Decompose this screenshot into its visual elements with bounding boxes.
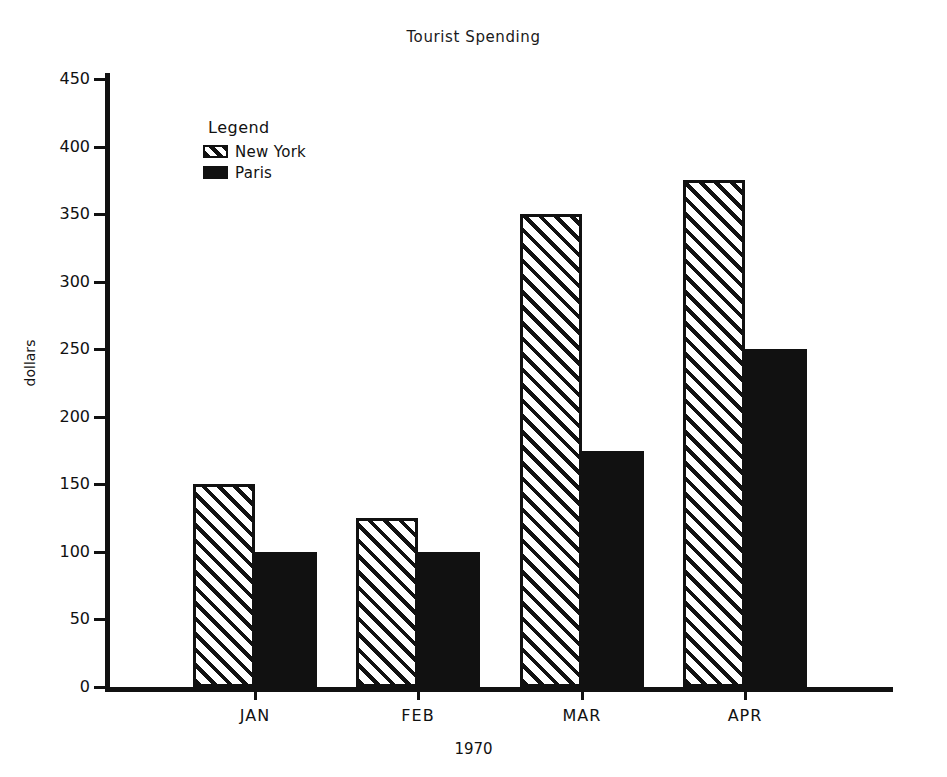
y-axis-tick <box>94 146 106 149</box>
y-axis-tick-label: 150 <box>4 474 90 493</box>
x-axis-tick-label: MAR <box>522 706 642 725</box>
bar-mar-new-york <box>520 214 582 687</box>
y-axis-tick <box>94 416 106 419</box>
y-axis-tick <box>94 618 106 621</box>
bar-feb-new-york <box>356 518 418 687</box>
chart-legend: Legend New YorkParis <box>203 118 306 183</box>
y-axis-tick <box>94 281 106 284</box>
bar-mar-paris <box>582 451 644 687</box>
y-axis-tick <box>94 483 106 486</box>
x-axis-tick <box>417 687 420 700</box>
y-axis-tick-label: 400 <box>4 137 90 156</box>
x-axis-tick <box>581 687 584 700</box>
legend-swatch-icon <box>203 166 228 179</box>
y-axis-tick <box>94 686 106 689</box>
y-axis-tick <box>94 213 106 216</box>
y-axis-title: dollars <box>22 331 38 395</box>
y-axis-tick-label: 100 <box>4 542 90 561</box>
bar-feb-paris <box>418 552 480 687</box>
chart-title: Tourist Spending <box>0 28 947 46</box>
bar-apr-paris <box>745 349 807 687</box>
bar-chart-figure: Tourist Spending 45040035030025020015010… <box>0 0 947 777</box>
x-axis-tick <box>254 687 257 700</box>
y-axis-tick-label: 450 <box>4 69 90 88</box>
x-axis-tick-label: APR <box>685 706 805 725</box>
legend-entries: New YorkParis <box>203 141 306 183</box>
x-axis-tick <box>744 687 747 700</box>
y-axis-tick-label: 350 <box>4 204 90 223</box>
y-axis-tick-label: 250 <box>4 339 90 358</box>
y-axis-tick-label: 300 <box>4 272 90 291</box>
y-axis-line <box>105 73 110 690</box>
bar-jan-new-york <box>193 484 255 687</box>
y-axis-tick-label: 200 <box>4 407 90 426</box>
x-axis-line <box>105 687 893 692</box>
y-axis-tick-label: 0 <box>4 677 90 696</box>
legend-item-label: Paris <box>235 164 272 182</box>
legend-item-label: New York <box>235 143 306 161</box>
x-axis-title: 1970 <box>0 740 947 758</box>
legend-title: Legend <box>208 118 306 137</box>
y-axis-tick <box>94 551 106 554</box>
bar-jan-paris <box>255 552 317 687</box>
y-axis-tick <box>94 78 106 81</box>
legend-item: Paris <box>203 162 306 183</box>
bar-apr-new-york <box>683 180 745 687</box>
legend-swatch-icon <box>203 145 228 158</box>
legend-item: New York <box>203 141 306 162</box>
x-axis-tick-label: JAN <box>195 706 315 725</box>
x-axis-tick-label: FEB <box>358 706 478 725</box>
y-axis-tick <box>94 348 106 351</box>
y-axis-tick-label: 50 <box>4 609 90 628</box>
